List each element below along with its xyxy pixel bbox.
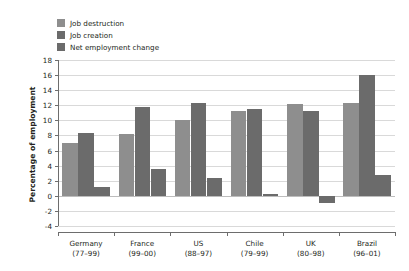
bar-group-uk <box>287 60 335 226</box>
y-tick-label-4: 4 <box>47 161 52 170</box>
y-tick-label-18: 18 <box>43 56 52 65</box>
x-tick-mark-2 <box>170 232 171 236</box>
y-tick-label--2: -2 <box>45 206 52 215</box>
legend-label-job-creation: Job creation <box>70 31 113 40</box>
y-tick-label-12: 12 <box>43 101 52 110</box>
bar-group-brazil <box>343 60 391 226</box>
legend-label-job-destruction: Job destruction <box>70 19 124 28</box>
x-tick-mark-end <box>395 232 396 236</box>
bar-uk-job-destruction <box>287 104 303 196</box>
y-tick-label-14: 14 <box>43 86 52 95</box>
y-tick-label-0: 0 <box>47 191 52 200</box>
x-axis-label-germany: Germany(77–99) <box>70 239 103 258</box>
x-axis-label-us: US(88–97) <box>185 239 213 258</box>
x-tick-mark-3 <box>227 232 228 236</box>
legend-swatch-net-employment-change <box>57 43 65 51</box>
legend-item-job-destruction: Job destruction <box>57 18 159 28</box>
bars-layer <box>58 60 395 226</box>
y-tick-label-10: 10 <box>43 116 52 125</box>
x-axis-label-uk: UK(80–98) <box>297 239 325 258</box>
chart-legend: Job destruction Job creation Net employm… <box>57 18 159 52</box>
x-tick-mark-1 <box>114 232 115 236</box>
legend-item-net-employment-change: Net employment change <box>57 42 159 52</box>
y-axis-title: Percentage of employment <box>28 65 37 225</box>
x-axis-label-brazil: Brazil(96–01) <box>353 239 381 258</box>
bar-group-chile <box>231 60 279 226</box>
bar-germany-job-creation <box>78 133 94 196</box>
legend-swatch-job-destruction <box>57 19 65 27</box>
y-tick-label--4: -4 <box>45 222 52 231</box>
bar-chile-job-creation <box>247 109 263 196</box>
bar-france-net-employment-change <box>151 169 167 196</box>
bar-group-france <box>119 60 167 226</box>
x-tick-mark-0 <box>58 232 59 236</box>
bar-germany-net-employment-change <box>94 187 110 196</box>
bar-us-job-creation <box>191 103 207 196</box>
y-tick-label-8: 8 <box>47 131 52 140</box>
plot-area: 181614121086420-2-4 <box>58 60 395 226</box>
x-axis-label-chile: Chile(79–99) <box>241 239 269 258</box>
legend-label-net-employment-change: Net employment change <box>70 43 159 52</box>
x-tick-mark-4 <box>283 232 284 236</box>
bar-us-job-destruction <box>175 120 191 195</box>
bar-chile-job-destruction <box>231 111 247 196</box>
gridline--4 <box>58 226 395 227</box>
y-tick-label-6: 6 <box>47 146 52 155</box>
bar-group-germany <box>62 60 110 226</box>
bar-france-job-destruction <box>119 134 135 196</box>
bar-brazil-net-employment-change <box>375 175 391 195</box>
legend-swatch-job-creation <box>57 31 65 39</box>
y-tick-label-16: 16 <box>43 71 52 80</box>
bar-france-job-creation <box>135 107 151 196</box>
bar-germany-job-destruction <box>62 143 78 196</box>
legend-item-job-creation: Job creation <box>57 30 159 40</box>
chart-container: Job destruction Job creation Net employm… <box>0 0 409 271</box>
bar-brazil-job-creation <box>359 75 375 196</box>
bar-brazil-job-destruction <box>343 103 359 196</box>
bar-chile-net-employment-change <box>263 194 279 196</box>
bar-uk-job-creation <box>303 111 319 196</box>
y-tick-mark--4 <box>55 226 58 227</box>
x-axis-label-france: France(99–00) <box>129 239 157 258</box>
bar-group-us <box>175 60 223 226</box>
y-tick-label-2: 2 <box>47 176 52 185</box>
bar-us-net-employment-change <box>207 178 223 195</box>
bar-uk-net-employment-change <box>319 196 335 204</box>
x-tick-mark-5 <box>339 232 340 236</box>
